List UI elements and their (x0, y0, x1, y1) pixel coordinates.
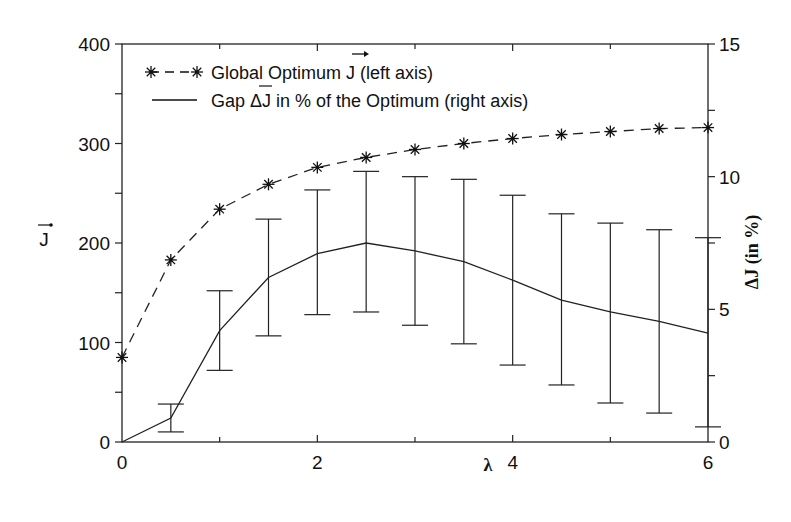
errorbar (695, 238, 721, 427)
x-axis-title: λ (484, 455, 493, 475)
legend-label-gap: Gap ΔJ in % of the Optimum (right axis) (211, 91, 528, 111)
y-left-tick-label: 100 (78, 333, 110, 354)
asterisk-marker-icon (145, 66, 157, 78)
errorbar (597, 223, 623, 403)
errorbar (353, 171, 379, 312)
asterisk-marker-icon (556, 129, 568, 141)
asterisk-marker-icon (604, 126, 616, 138)
asterisk-marker-icon (214, 203, 226, 215)
asterisk-marker-icon (409, 143, 421, 155)
asterisk-marker-icon (360, 151, 372, 163)
y-left-tick-label: 200 (78, 233, 110, 254)
asterisk-marker-icon (263, 178, 275, 190)
legend-item-optimum: Global Optimum J (left axis) (145, 51, 433, 83)
asterisk-marker-icon (507, 133, 519, 145)
y-left-tick-label: 400 (78, 34, 110, 55)
x-tick-label: 0 (117, 452, 128, 473)
legend-label-optimum: Global Optimum J (left axis) (211, 63, 433, 83)
x-tick-label: 4 (507, 452, 518, 473)
asterisk-marker-icon (116, 351, 128, 363)
y-right-tick-label: 5 (719, 299, 730, 320)
legend-item-gap: Gap ΔJ in % of the Optimum (right axis) (152, 86, 528, 111)
y-axis-right-title: ΔJ (in %) (742, 215, 763, 289)
y-left-tick-label: 0 (99, 432, 110, 453)
y-right-tick-label: 0 (719, 432, 730, 453)
legend: Global Optimum J (left axis) Gap ΔJ in %… (145, 51, 528, 111)
vector-arrowhead-icon (364, 51, 369, 57)
gap-errorbars (158, 171, 721, 432)
asterisk-marker-icon (653, 123, 665, 135)
y-axis-left-title: J (38, 223, 53, 250)
asterisk-marker-icon (191, 66, 203, 78)
asterisk-marker-icon (165, 254, 177, 266)
asterisk-marker-icon (311, 161, 323, 173)
asterisk-marker-icon (458, 138, 470, 150)
svg-text:J: J (39, 229, 49, 250)
y-left-tick-label: 300 (78, 134, 110, 155)
vector-arrowhead-icon (49, 223, 53, 227)
asterisk-marker-icon (145, 66, 157, 78)
asterisk-marker-icon (702, 122, 714, 134)
chart: 02460100200300400051015 Global Optimum J… (0, 0, 791, 522)
x-tick-label: 2 (312, 452, 323, 473)
asterisk-marker-icon (191, 66, 203, 78)
y-right-tick-label: 15 (719, 34, 740, 55)
y-right-tick-label: 10 (719, 167, 740, 188)
svg-text:ΔJ (in %): ΔJ (in %) (742, 215, 763, 289)
x-tick-label: 6 (703, 452, 714, 473)
